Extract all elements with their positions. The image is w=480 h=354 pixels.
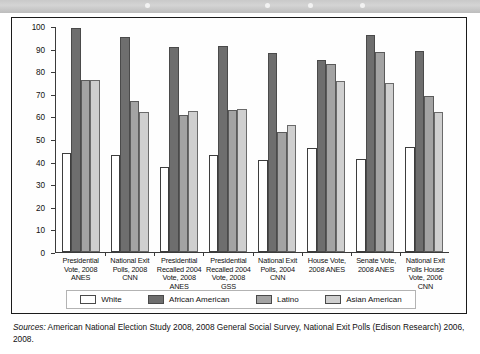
y-tick: 80 <box>51 72 55 73</box>
bar-white <box>160 167 170 252</box>
y-tick: 50 <box>51 140 55 141</box>
plot-area: 0102030405060708090100 <box>55 27 449 253</box>
y-tick: 60 <box>51 117 55 118</box>
bar-group <box>253 27 302 252</box>
y-tick-label: 20 <box>36 203 45 212</box>
legend-item: African American <box>148 295 229 304</box>
y-tick: 10 <box>51 230 55 231</box>
bar-aa <box>218 46 228 252</box>
x-axis-label: National Exit Polls House Vote, 2006 CNN <box>401 257 450 291</box>
y-tick-label: 0 <box>41 249 45 258</box>
bar-group <box>400 27 449 252</box>
legend-swatch-white <box>80 295 96 304</box>
x-axis-label: National Exit Polls, 2008 CNN <box>105 257 154 291</box>
y-tick: 100 <box>51 27 55 28</box>
bar-group <box>56 27 105 252</box>
y-tick-label: 10 <box>36 226 45 235</box>
bar-aa <box>268 53 278 252</box>
bar-lat <box>424 96 434 252</box>
bar-asn <box>237 109 247 253</box>
bar-white <box>258 160 268 252</box>
bar-asn <box>90 80 100 252</box>
bar-aa <box>366 35 376 252</box>
source-text: American National Election Study 2008, 2… <box>13 322 464 344</box>
x-axis-label: House Vote, 2008 ANES <box>302 257 351 291</box>
y-tick-label: 30 <box>36 181 45 190</box>
y-tick: 0 <box>51 253 55 254</box>
y-tick: 40 <box>51 163 55 164</box>
bar-white <box>209 155 219 252</box>
y-tick-label: 70 <box>36 90 45 99</box>
bar-white <box>62 153 72 252</box>
y-tick: 90 <box>51 50 55 51</box>
legend-item: Asian American <box>325 295 402 304</box>
bar-aa <box>415 51 425 252</box>
bar-asn <box>385 83 395 253</box>
bar-aa <box>169 47 179 252</box>
y-tick: 70 <box>51 95 55 96</box>
bar-groups <box>56 27 449 252</box>
bar-aa <box>71 28 81 252</box>
legend-item: Latino <box>256 295 299 304</box>
page-header-band <box>0 0 480 13</box>
y-tick-label: 100 <box>32 23 45 32</box>
bar-group <box>302 27 351 252</box>
legend-label: African American <box>169 295 229 304</box>
bar-lat <box>179 115 189 252</box>
bar-group <box>351 27 400 252</box>
bar-lat <box>375 52 385 252</box>
y-tick: 20 <box>51 208 55 209</box>
x-axis-label: Presidential Recalled 2004 Vote, 2008 AN… <box>155 257 204 291</box>
bar-group <box>105 27 154 252</box>
source-note: Sources: American National Election Stud… <box>13 322 465 345</box>
bar-white <box>111 155 121 252</box>
bar-group <box>154 27 203 252</box>
x-axis-label: Senate Vote, 2008 ANES <box>352 257 401 291</box>
bar-lat <box>277 132 287 252</box>
source-label: Sources: <box>13 322 46 332</box>
x-axis-labels: Presidential Vote, 2008 ANESNational Exi… <box>56 257 450 291</box>
bar-aa <box>317 60 327 252</box>
y-tick-label: 50 <box>36 136 45 145</box>
bar-lat <box>130 101 140 252</box>
bar-asn <box>434 112 444 252</box>
bar-lat <box>81 80 91 252</box>
legend-item: White <box>80 295 121 304</box>
legend-swatch-lat <box>256 295 272 304</box>
x-axis-label: Presidential Recalled 2004 Vote, 2008 GS… <box>204 257 253 291</box>
legend-swatch-aa <box>148 295 164 304</box>
bar-asn <box>188 111 198 252</box>
legend-label: White <box>101 295 121 304</box>
y-tick-label: 80 <box>36 68 45 77</box>
legend-swatch-asn <box>325 295 341 304</box>
bar-aa <box>120 37 130 252</box>
bar-lat <box>326 64 336 252</box>
bar-group <box>203 27 252 252</box>
legend-label: Latino <box>277 295 299 304</box>
bar-white <box>356 159 366 252</box>
y-tick: 30 <box>51 185 55 186</box>
bar-white <box>405 147 415 252</box>
legend-label: Asian American <box>346 295 402 304</box>
x-axis-label: Presidential Vote, 2008 ANES <box>56 257 105 291</box>
y-tick-label: 90 <box>36 45 45 54</box>
chart-legend: WhiteAfrican AmericanLatinoAsian America… <box>66 290 416 309</box>
figure-frame: 0102030405060708090100 Presidential Vote… <box>11 17 467 314</box>
y-tick-label: 40 <box>36 158 45 167</box>
bar-asn <box>287 125 297 252</box>
bar-lat <box>228 110 238 252</box>
y-tick-label: 60 <box>36 113 45 122</box>
bar-asn <box>139 112 149 252</box>
x-axis-label: National Exit Polls, 2004 CNN <box>253 257 302 291</box>
bar-asn <box>336 81 346 252</box>
bar-white <box>307 148 317 252</box>
